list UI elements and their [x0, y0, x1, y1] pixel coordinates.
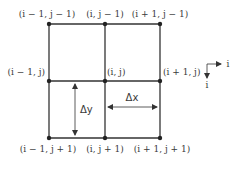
node-label-top-left: (i − 1, j − 1) [19, 9, 75, 19]
delta-y-dimension: Δy [75, 84, 93, 135]
node-label-bot-right: (i + 1, j + 1) [134, 144, 190, 154]
grid-canvas: (i − 1, j − 1) (i, j − 1) (i + 1, j − 1)… [0, 0, 244, 169]
axis-label-vertical: i [206, 80, 209, 90]
node-dot [103, 79, 107, 83]
axis-label-horizontal: i [227, 59, 230, 69]
delta-y-label: Δy [80, 104, 93, 115]
node-label-top-mid: (i, j − 1) [86, 9, 123, 19]
finite-difference-grid-diagram: (i − 1, j − 1) (i, j − 1) (i + 1, j − 1)… [0, 0, 244, 169]
node-label-bot-mid: (i, j + 1) [86, 144, 123, 154]
delta-x-label: Δx [126, 92, 139, 103]
node-dot [47, 136, 51, 140]
node-dot [103, 136, 107, 140]
node-dot [47, 79, 51, 83]
node-label-top-right: (i + 1, j − 1) [132, 9, 188, 19]
node-dot [158, 136, 162, 140]
node-dot [103, 22, 107, 26]
node-label-mid-left: (i − 1, j) [8, 67, 45, 77]
axis-indicator: i i [206, 59, 230, 90]
node-dot [158, 22, 162, 26]
node-dot [47, 22, 51, 26]
node-label-mid-right: (i + 1, j) [163, 67, 200, 77]
node-label-mid-mid: (i, j) [107, 67, 125, 77]
node-label-bot-left: (i − 1, j + 1) [20, 144, 76, 154]
node-dot [158, 79, 162, 83]
delta-x-dimension: Δx [108, 92, 157, 107]
